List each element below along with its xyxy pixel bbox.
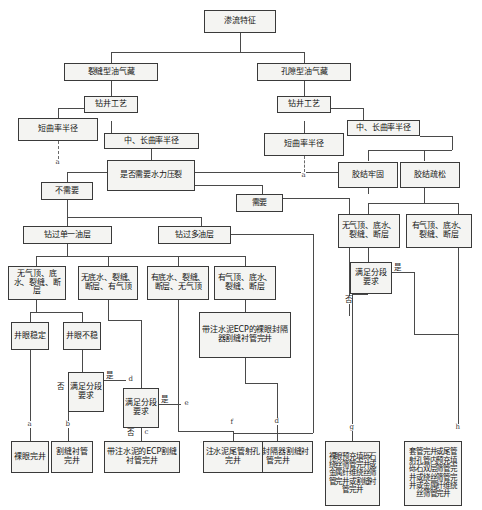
edge-cement-split bbox=[368, 150, 452, 151]
result-f-node[interactable]: 注水泥尾管射孔完井 bbox=[203, 441, 263, 473]
node-result-c[interactable]: 带注水泥的ECP割缝衬管完井 bbox=[104, 441, 180, 473]
edge-cond2-down bbox=[108, 300, 109, 320]
node-result-g-label: 裸眼预充填砾石绕丝筛管完井或金属纤维绕丝筛管完井或割缝衬管完井 bbox=[327, 453, 378, 495]
node-multi-layer-label: 钻过多油层 bbox=[160, 231, 229, 240]
edge-multi-right bbox=[231, 234, 313, 235]
node-not-need-label: 不需要 bbox=[43, 187, 91, 196]
edge-frac-to-cementfirm bbox=[195, 172, 358, 173]
edge-multi-to-f bbox=[233, 433, 313, 434]
node-short-radius-right[interactable]: 短曲率半径 bbox=[264, 133, 344, 156]
node-single-layer[interactable]: 钻过单一油层 bbox=[23, 226, 112, 244]
node-drilling-tech-left-label: 钻井工艺 bbox=[86, 100, 136, 109]
node-need[interactable]: 需要 bbox=[236, 194, 283, 212]
node-condition-3-label: 有底水、裂缝、断层、无气顶 bbox=[149, 274, 207, 292]
node-drilling-tech-left[interactable]: 钻井工艺 bbox=[84, 96, 138, 113]
edge-single-down bbox=[67, 244, 68, 256]
node-condition-right-1[interactable]: 无气顶、底水、裂缝、断层 bbox=[338, 214, 400, 248]
tag-d-decision: d bbox=[128, 376, 133, 383]
node-medium-long-radius-right[interactable]: 中、长曲率半径 bbox=[347, 120, 420, 136]
node-condition-2[interactable]: 无底水、裂缝、断层、有气顶 bbox=[78, 266, 138, 300]
node-condition-4-label: 有气顶、底水、裂缝、断层 bbox=[216, 274, 274, 292]
tag-a-left: a bbox=[55, 159, 60, 166]
node-cement-firm[interactable]: 胶结牢固 bbox=[338, 162, 398, 188]
node-result-f-real[interactable] bbox=[200, 441, 202, 443]
node-short-radius-left[interactable]: 短曲率半径 bbox=[18, 118, 98, 141]
node-result-g[interactable]: 裸眼预充填砾石绕丝筛管完井或金属纤维绕丝筛管完井或割缝衬管完井 bbox=[325, 441, 380, 506]
edge-notneed-split-down bbox=[67, 200, 68, 217]
node-ecp-liner-label: 带注水泥ECP的裸眼封隔器割缝衬管完井 bbox=[201, 326, 289, 344]
node-not-need[interactable]: 不需要 bbox=[41, 182, 93, 200]
edge-to-cond2 bbox=[108, 256, 109, 266]
node-result-c-label: 带注水泥的ECP割缝衬管完井 bbox=[106, 448, 178, 466]
node-result-f-label: 注水泥尾管射孔完井 bbox=[205, 448, 261, 466]
edge-dec1-yes bbox=[104, 380, 126, 381]
tag-d: d bbox=[274, 418, 279, 425]
edge-to-cement-loose bbox=[424, 150, 425, 161]
node-medium-long-radius-left[interactable]: 中、长曲率半径 bbox=[104, 133, 199, 149]
node-hole-stable[interactable]: 井眼稳定 bbox=[11, 322, 49, 350]
label-no-1: 否 bbox=[56, 383, 64, 391]
edge-dec3-yes-down bbox=[414, 272, 415, 334]
tag-e-decision: e bbox=[184, 400, 189, 407]
edge-shortleft-to-a bbox=[58, 141, 59, 159]
node-ecp-liner[interactable]: 带注水泥ECP的裸眼封隔器割缝衬管完井 bbox=[199, 312, 291, 358]
label-yes-2: 是 bbox=[160, 396, 168, 404]
edge-to-result-c bbox=[141, 431, 142, 441]
edge-medlongright-down bbox=[452, 136, 453, 150]
edge-f-down bbox=[233, 431, 234, 441]
edge-to-condr1 bbox=[368, 203, 369, 214]
node-result-h[interactable]: 套管完井或尾管射孔管内预充填砾石双层筛管完井或绕丝筛管完井或金属纤维绕丝筛管完井 bbox=[404, 441, 462, 506]
edge-dec3-no bbox=[352, 294, 368, 295]
edge-ecp-right bbox=[245, 383, 277, 384]
flowchart-canvas: 渗流特征 裂缝型油气藏 孔隙型油气藏 钻井工艺 钻井工艺 短曲率半径 中、长曲率… bbox=[0, 0, 482, 510]
node-medium-long-radius-right-label: 中、长曲率半径 bbox=[349, 124, 418, 133]
edge-dright-to-medlong bbox=[331, 108, 363, 109]
edge-to-h bbox=[458, 334, 459, 425]
label-yes-3: 是 bbox=[393, 264, 401, 272]
node-stage-requirement-2[interactable]: 满足分段要求 bbox=[123, 388, 159, 428]
node-condition-right-2-label: 有气顶、底水、裂缝、断层 bbox=[408, 222, 470, 240]
node-stage-requirement-3[interactable]: 满足分段要求 bbox=[350, 262, 392, 294]
tag-g: g bbox=[349, 424, 354, 431]
tag-a: a bbox=[27, 421, 32, 428]
node-result-b-label: 割缝衬管完井 bbox=[53, 448, 91, 466]
edge-to-cond4 bbox=[245, 256, 246, 266]
edge-dright-to-short bbox=[304, 121, 305, 133]
node-multi-layer[interactable]: 钻过多油层 bbox=[158, 226, 231, 244]
edge-to-result-a bbox=[30, 431, 31, 441]
edge-condr1-to-dec3 bbox=[368, 248, 369, 262]
edge-to-single bbox=[67, 217, 68, 226]
node-condition-1[interactable]: 无气顶、底水、裂缝、断层 bbox=[8, 266, 66, 300]
node-need-frac-decision[interactable]: 是否需要水力压裂 bbox=[107, 160, 195, 191]
node-drilling-tech-right[interactable]: 钻井工艺 bbox=[277, 96, 331, 113]
node-stage-requirement-1[interactable]: 满足分段要求 bbox=[68, 372, 104, 412]
edge-cond2-right bbox=[108, 320, 141, 321]
node-fracture-reservoir[interactable]: 裂缝型油气藏 bbox=[64, 63, 158, 81]
node-condition-right-2[interactable]: 有气顶、底水、裂缝、断层 bbox=[406, 214, 472, 248]
node-condition-4[interactable]: 有气顶、底水、裂缝、断层 bbox=[214, 266, 276, 300]
node-fracture-reservoir-label: 裂缝型油气藏 bbox=[66, 68, 156, 77]
edge-to-multi bbox=[201, 217, 202, 226]
node-result-h-label: 套管完井或尾管射孔管内预充填砾石双层筛管完井或绕丝筛管完井或金属纤维绕丝筛管完井 bbox=[406, 448, 460, 498]
node-hole-stable-label: 井眼稳定 bbox=[13, 332, 47, 341]
edge-ecp-down bbox=[245, 358, 246, 383]
node-hole-unstable-label: 井眼不稳 bbox=[65, 332, 99, 341]
node-result-a[interactable]: 裸眼完井 bbox=[11, 441, 49, 473]
node-result-b[interactable]: 割缝衬管完井 bbox=[51, 441, 93, 473]
edge-medlongleft-to-frac bbox=[151, 149, 152, 160]
node-hole-unstable[interactable]: 井眼不稳 bbox=[63, 322, 101, 350]
edge-dec3-yes-right bbox=[414, 334, 458, 335]
node-condition-3[interactable]: 有底水、裂缝、断层、无气顶 bbox=[147, 266, 209, 300]
node-cement-loose[interactable]: 胶结疏松 bbox=[400, 162, 460, 188]
node-pore-reservoir[interactable]: 孔隙型油气藏 bbox=[257, 63, 351, 81]
edge-need-right bbox=[283, 198, 349, 199]
node-root[interactable]: 渗流特征 bbox=[204, 10, 276, 33]
edge-condr2-down bbox=[458, 248, 459, 334]
node-short-radius-right-label: 短曲率半径 bbox=[266, 140, 342, 149]
edge-to-result-d bbox=[277, 431, 278, 441]
node-stage-requirement-1-label: 满足分段要求 bbox=[70, 383, 102, 401]
edge-to-fracture bbox=[111, 52, 112, 63]
edge-root-down bbox=[240, 33, 241, 52]
edge-to-cond3 bbox=[178, 256, 179, 266]
edge-holestable-to-a bbox=[30, 350, 31, 431]
